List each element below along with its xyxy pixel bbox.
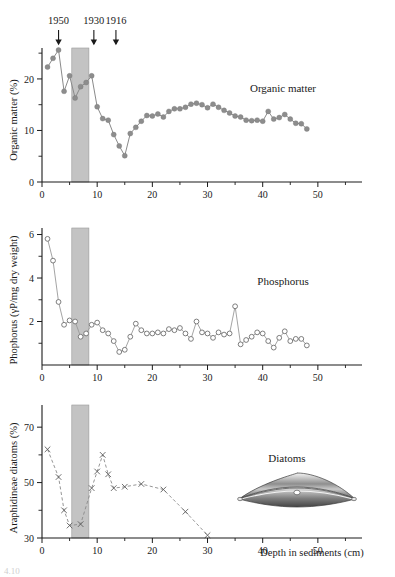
data-point <box>227 110 232 115</box>
svg-text:0: 0 <box>40 545 45 556</box>
year-label: 1916 <box>105 15 126 26</box>
organic-matter-series-label: Organic matter <box>250 82 316 94</box>
svg-text:10: 10 <box>24 125 34 136</box>
data-point <box>100 328 105 333</box>
data-point <box>244 118 249 123</box>
data-point <box>194 319 199 324</box>
data-point <box>293 337 298 342</box>
svg-text:30: 30 <box>203 372 213 383</box>
data-point <box>45 65 50 70</box>
data-point <box>183 331 188 336</box>
data-point <box>95 104 100 109</box>
svg-text:30: 30 <box>203 189 213 200</box>
data-point <box>89 322 94 327</box>
data-point <box>111 132 116 137</box>
svg-text:40: 40 <box>258 189 268 200</box>
data-point <box>111 339 116 344</box>
data-point <box>62 89 67 94</box>
data-point <box>67 318 72 323</box>
data-point <box>84 80 89 85</box>
x-axis-title: Depth in sediments (cm) <box>260 547 364 559</box>
data-point <box>200 330 205 335</box>
data-point <box>100 116 105 121</box>
data-point <box>78 334 83 339</box>
data-point <box>183 105 188 110</box>
svg-text:50: 50 <box>313 372 323 383</box>
year-label: 1930 <box>83 15 104 26</box>
svg-text:10: 10 <box>92 189 102 200</box>
data-point <box>167 327 172 332</box>
phosphorus-y-axis-title: Phophorus (γP/mg dry weight) <box>8 235 20 365</box>
data-point <box>117 350 122 355</box>
data-point <box>238 115 243 120</box>
figure-sediment-profiles: 0102030405001020 Organic matter (%) Orga… <box>0 0 395 577</box>
data-point <box>233 114 238 119</box>
data-point <box>266 109 271 114</box>
data-point <box>161 331 166 336</box>
svg-text:50: 50 <box>313 189 323 200</box>
svg-text:10: 10 <box>92 545 102 556</box>
data-point <box>56 300 61 305</box>
organic-matter-y-axis-title: Organic matter (%) <box>8 79 20 161</box>
data-point <box>150 114 155 119</box>
data-point <box>260 119 265 124</box>
data-point <box>62 322 67 327</box>
svg-text:2: 2 <box>29 316 34 327</box>
data-point <box>288 339 293 344</box>
svg-text:50: 50 <box>24 477 34 488</box>
svg-text:0: 0 <box>40 372 45 383</box>
data-point <box>205 331 210 336</box>
svg-text:0: 0 <box>29 177 34 188</box>
svg-text:40: 40 <box>258 372 268 383</box>
data-point <box>211 102 216 107</box>
svg-text:20: 20 <box>147 189 157 200</box>
data-point <box>189 337 194 342</box>
svg-text:30: 30 <box>24 533 34 544</box>
data-point <box>45 236 50 241</box>
data-point <box>238 342 243 347</box>
data-point <box>51 258 56 263</box>
data-point <box>144 113 149 118</box>
data-point <box>56 48 61 53</box>
data-point <box>166 109 171 114</box>
data-point <box>73 319 78 324</box>
data-point <box>133 321 138 326</box>
data-point <box>233 304 238 309</box>
data-point <box>299 337 304 342</box>
data-point <box>128 131 133 136</box>
data-point <box>139 119 144 124</box>
data-point <box>117 143 122 148</box>
data-point <box>78 84 83 89</box>
data-point <box>277 335 282 340</box>
shaded-band-diatoms <box>72 405 89 538</box>
data-point <box>150 331 155 336</box>
data-point <box>188 102 193 107</box>
diatoms-series-label: Diatoms <box>268 452 305 464</box>
diatoms-y-axis-title: Araphidineae diatoms (%) <box>8 422 20 533</box>
data-point <box>227 331 232 336</box>
data-point <box>172 106 177 111</box>
data-point <box>177 106 182 111</box>
data-point <box>205 105 210 110</box>
diatom-right-apex <box>352 497 357 500</box>
svg-text:6: 6 <box>29 229 34 240</box>
data-point <box>304 343 309 348</box>
svg-text:4: 4 <box>29 273 34 284</box>
shaded-band-organic-matter <box>72 48 89 182</box>
figure-canvas: 0102030405001020 Organic matter (%) Orga… <box>0 0 395 577</box>
data-point <box>155 330 160 335</box>
data-point <box>244 338 249 343</box>
svg-text:20: 20 <box>24 74 34 85</box>
data-point <box>106 118 111 123</box>
data-point <box>73 95 78 100</box>
data-point <box>222 108 227 113</box>
data-point <box>288 117 293 122</box>
data-point <box>106 331 111 336</box>
data-point <box>122 153 127 158</box>
svg-text:10: 10 <box>92 372 102 383</box>
data-point <box>260 331 265 336</box>
data-point <box>255 118 260 123</box>
data-point <box>282 329 287 334</box>
data-point <box>216 105 221 110</box>
data-point <box>271 345 276 350</box>
